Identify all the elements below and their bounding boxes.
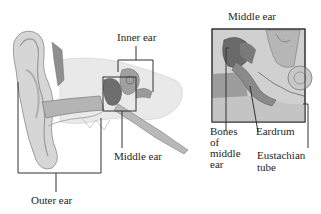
middle-ear-label: Middle ear <box>114 151 162 162</box>
eustachian-label-line2: tube <box>257 162 276 173</box>
middle-ear-closeup-illustration <box>212 29 312 122</box>
middle-ear-closeup-title: Middle ear <box>228 11 276 22</box>
inner-ear-label: Inner ear <box>117 32 156 43</box>
bones-label-line4: ear <box>210 159 223 170</box>
eardrum-label: Eardrum <box>256 126 294 137</box>
outer-ear-label: Outer ear <box>31 195 72 206</box>
eustachian-label-line1: Eustachian <box>257 150 305 161</box>
ear-anatomy-diagram <box>0 0 321 214</box>
